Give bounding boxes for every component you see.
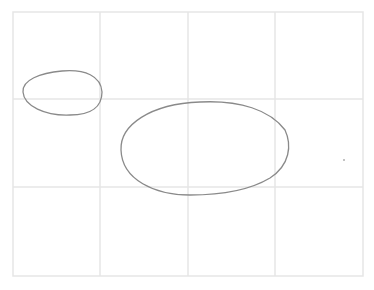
small-oval (23, 71, 102, 115)
stray-dot (343, 159, 345, 161)
sketch-shapes (23, 71, 289, 195)
large-oval (121, 102, 289, 195)
sketch-canvas (0, 0, 374, 290)
grid-lines (13, 12, 363, 276)
sketch-dots (343, 159, 345, 161)
grid-drawing (0, 0, 374, 290)
